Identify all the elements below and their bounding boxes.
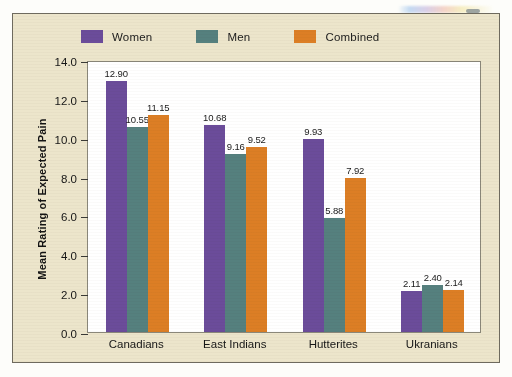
y-axis-tick-label: 0.0 [61, 328, 77, 340]
bar-rect: 12.90 [106, 81, 127, 332]
bar-group-ukranians: 2.112.402.14 [401, 62, 464, 332]
bar-women-canadians[interactable]: 12.90 [106, 62, 127, 332]
bar-rect: 5.88 [324, 218, 345, 332]
bar-combined-hutterites[interactable]: 7.92 [345, 62, 366, 332]
bar-group-hutterites: 9.935.887.92 [303, 62, 366, 332]
bar-rect: 9.93 [303, 139, 324, 332]
y-axis-tick [81, 101, 88, 102]
x-axis-label-ukranians: Ukranians [406, 338, 458, 350]
y-axis-title: Mean Rating of Expected Pain [31, 74, 53, 324]
x-axis-label-east-indians: East Indians [203, 338, 266, 350]
plot-inner: 0.02.04.06.08.010.012.014.012.9010.5511.… [88, 62, 480, 332]
legend-item-combined[interactable]: Combined [294, 30, 379, 43]
y-axis-tick-label: 10.0 [55, 134, 77, 146]
bar-rect: 9.16 [225, 154, 246, 332]
legend-label-men: Men [227, 31, 250, 43]
bar-men-canadians[interactable]: 10.55 [127, 62, 148, 332]
bar-combined-canadians[interactable]: 11.15 [148, 62, 169, 332]
legend-item-women[interactable]: Women [81, 30, 152, 43]
scan-artifact-fringe [398, 6, 494, 13]
y-axis-tick [81, 62, 88, 63]
bar-men-east-indians[interactable]: 9.16 [225, 62, 246, 332]
bar-value-label: 5.88 [325, 205, 343, 216]
bar-value-label: 9.52 [248, 134, 266, 145]
bar-rect: 2.14 [443, 290, 464, 332]
legend-label-combined: Combined [325, 31, 379, 43]
bar-rect: 7.92 [345, 178, 366, 332]
x-axis-label-canadians: Canadians [109, 338, 164, 350]
bar-women-ukranians[interactable]: 2.11 [401, 62, 422, 332]
legend-item-men[interactable]: Men [196, 30, 250, 43]
y-axis-tick-label: 8.0 [61, 173, 77, 185]
legend-swatch-combined [294, 30, 316, 43]
bar-rect: 11.15 [148, 115, 169, 332]
y-axis-title-text: Mean Rating of Expected Pain [36, 118, 48, 279]
y-axis-tick [81, 217, 88, 218]
bar-value-label: 2.40 [424, 272, 442, 283]
bar-rect: 9.52 [246, 147, 267, 332]
bar-value-label: 2.14 [445, 277, 463, 288]
legend-label-women: Women [112, 31, 152, 43]
bar-women-east-indians[interactable]: 10.68 [204, 62, 225, 332]
bar-value-label: 9.93 [304, 126, 322, 137]
legend-swatch-men [196, 30, 218, 43]
x-axis-label-hutterites: Hutterites [309, 338, 358, 350]
legend-swatch-women [81, 30, 103, 43]
y-axis-tick-label: 14.0 [55, 56, 77, 68]
bar-combined-east-indians[interactable]: 9.52 [246, 62, 267, 332]
bar-value-label: 10.68 [203, 112, 226, 123]
plot-area: 0.02.04.06.08.010.012.014.012.9010.5511.… [87, 61, 481, 333]
y-axis-tick [81, 179, 88, 180]
y-axis-tick-label: 6.0 [61, 211, 77, 223]
bar-men-hutterites[interactable]: 5.88 [324, 62, 345, 332]
bar-women-hutterites[interactable]: 9.93 [303, 62, 324, 332]
bar-group-canadians: 12.9010.5511.15 [106, 62, 169, 332]
bar-value-label: 2.11 [403, 278, 420, 289]
bar-rect: 2.11 [401, 291, 422, 332]
bar-rect: 10.55 [127, 127, 148, 332]
bar-rect: 10.68 [204, 125, 225, 332]
bar-value-label: 10.55 [126, 114, 149, 125]
scanned-page: WomenMenCombined Mean Rating of Expected… [0, 0, 512, 377]
bar-value-label: 9.16 [227, 141, 245, 152]
bar-value-label: 12.90 [105, 68, 128, 79]
y-axis-tick-label: 4.0 [61, 250, 77, 262]
chart-figure-panel: WomenMenCombined Mean Rating of Expected… [12, 13, 500, 363]
bar-men-ukranians[interactable]: 2.40 [422, 62, 443, 332]
bar-value-label: 11.15 [147, 102, 170, 113]
y-axis-tick-label: 12.0 [55, 95, 77, 107]
chart-legend: WomenMenCombined [81, 30, 379, 43]
y-axis-tick [81, 334, 88, 335]
y-axis-tick [81, 295, 88, 296]
y-axis-tick [81, 140, 88, 141]
bar-value-label: 7.92 [346, 165, 364, 176]
y-axis-tick-label: 2.0 [61, 289, 77, 301]
bar-group-east-indians: 10.689.169.52 [204, 62, 267, 332]
bar-rect: 2.40 [422, 285, 443, 332]
bar-combined-ukranians[interactable]: 2.14 [443, 62, 464, 332]
y-axis-tick [81, 256, 88, 257]
